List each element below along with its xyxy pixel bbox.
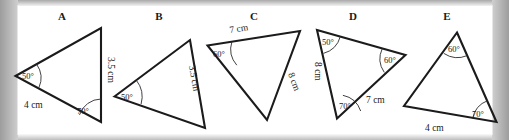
triangle-a-angle-arc-left: [37, 64, 41, 88]
triangle-e-group: E 60° 70° 4 cm: [404, 10, 497, 133]
triangle-e-angle-arc-top: [444, 53, 467, 57]
triangle-b-letter: B: [155, 10, 163, 22]
triangle-d-letter: D: [349, 10, 357, 22]
triangle-d-group: D 50° 60° 70° 8 cm 7 cm: [313, 10, 406, 119]
triangle-a-angle-left-label: 50°: [22, 71, 34, 81]
triangle-c-outline: [208, 31, 301, 120]
triangle-a-side-bottom-label: 4 cm: [24, 100, 43, 110]
triangle-a-side-right-label: 3.5 cm: [106, 57, 116, 83]
triangles-diagram: A 50° 70° 4 cm 3.5 cm B 50° 3.5 cm C: [0, 0, 509, 140]
triangle-b-angle-left-label: 50°: [121, 92, 133, 102]
triangle-d-angle-bottom-label: 70°: [339, 101, 351, 111]
triangle-d-side-bottom-right-label: 7 cm: [366, 95, 385, 105]
figure-panel: A 50° 70° 4 cm 3.5 cm B 50° 3.5 cm C: [0, 0, 509, 140]
triangle-e-letter: E: [443, 10, 450, 22]
triangle-c-side-right-label: 8 cm: [286, 71, 302, 93]
triangle-e-angle-bottom-right-label: 70°: [472, 109, 484, 119]
triangle-c-letter: C: [250, 10, 258, 22]
triangle-d-side-left-label: 8 cm: [313, 62, 323, 81]
triangle-b-side-right-label: 3.5 cm: [187, 65, 201, 93]
triangle-b-angle-arc-left: [136, 80, 142, 104]
triangle-d-angle-top-left-label: 50°: [322, 37, 334, 47]
triangle-d-angle-right-label: 60°: [384, 55, 396, 65]
triangle-c-group: C 60° 7 cm 8 cm: [208, 10, 303, 120]
triangle-e-side-bottom-label: 4 cm: [425, 123, 444, 133]
triangle-a-angle-bottom-right-label: 70°: [77, 106, 89, 116]
triangle-e-angle-top-label: 60°: [448, 44, 460, 54]
triangle-a-letter: A: [58, 10, 66, 22]
triangle-c-side-top-label: 7 cm: [229, 22, 250, 35]
triangle-c-angle-top-left-label: 60°: [213, 49, 225, 59]
triangle-c-angle-arc-top-left: [231, 42, 237, 65]
triangle-a-group: A 50° 70° 4 cm 3.5 cm: [16, 10, 117, 122]
triangle-b-group: B 50° 3.5 cm: [115, 10, 206, 128]
